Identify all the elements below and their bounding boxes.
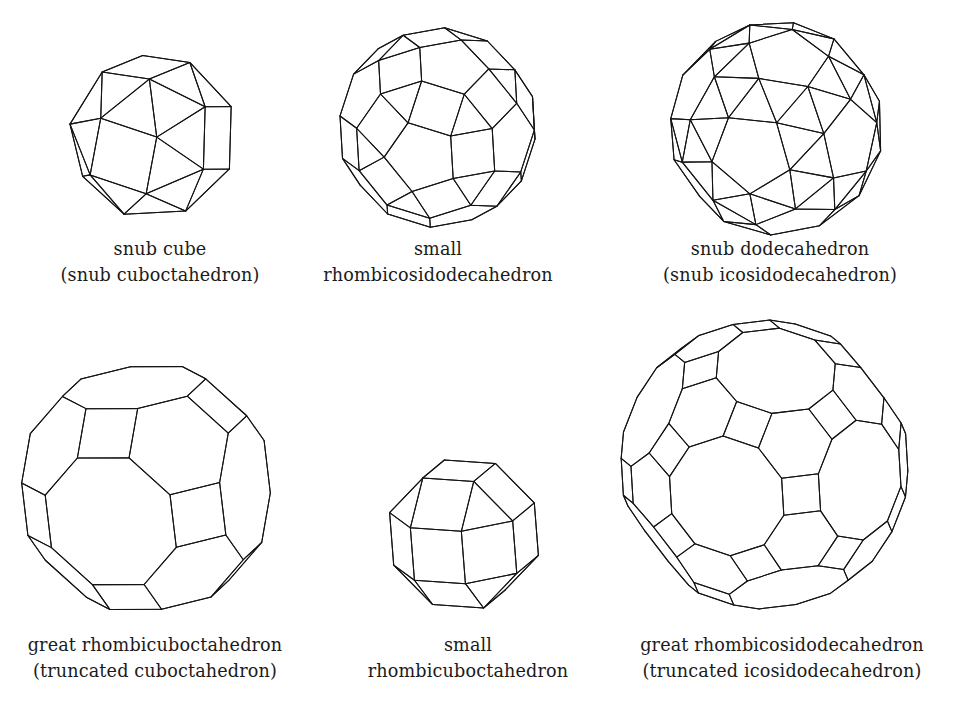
silhouette-edge [495, 463, 534, 503]
face [465, 573, 516, 608]
silhouette-edge [211, 580, 229, 597]
silhouette-edge [390, 478, 423, 513]
silhouette-edge [674, 160, 700, 197]
face [730, 545, 781, 581]
silhouette-edge [206, 379, 247, 416]
great-rhombicosidodecahedron-wireframe [612, 312, 917, 617]
silhouette-edge [247, 416, 264, 441]
face [420, 40, 489, 94]
face [669, 378, 737, 447]
face [829, 56, 864, 99]
silhouette-edge [621, 458, 623, 495]
silhouette-edge [487, 41, 515, 70]
face [682, 162, 713, 201]
face [22, 396, 86, 495]
silhouette-edge [45, 560, 86, 597]
face [649, 423, 689, 476]
face [671, 49, 715, 119]
silhouette-edge [102, 55, 142, 72]
silhouette-edge [430, 220, 472, 227]
face [101, 79, 157, 137]
silhouette-edge [143, 55, 190, 62]
caption-line-1: great rhombicuboctahedron [0, 632, 310, 658]
silhouette-edge [423, 460, 445, 478]
face [674, 160, 724, 222]
silhouette-edge [671, 75, 683, 118]
face [670, 436, 784, 556]
face [882, 398, 901, 450]
silhouette-edge [734, 605, 760, 609]
small-rhombicuboctahedron-wireframe [378, 448, 550, 620]
truncated-icosidodecahedron-svg [612, 312, 917, 617]
face [146, 169, 203, 211]
silhouette-edge [521, 139, 535, 181]
face [790, 170, 834, 209]
silhouette-edge [390, 513, 394, 565]
silhouette-edge [848, 561, 872, 580]
caption-line-2: (truncated cuboctahedron) [0, 658, 310, 684]
face [749, 29, 828, 86]
face [818, 536, 863, 570]
snub-dodecahedron-wireframe [662, 14, 890, 242]
face [809, 390, 856, 439]
face [513, 503, 539, 573]
face [690, 77, 728, 120]
face [808, 56, 851, 99]
silhouette-edge [733, 320, 770, 324]
face [844, 521, 892, 580]
face [777, 87, 824, 134]
caption-line-2: (truncated icosidodecahedron) [612, 658, 952, 684]
silhouette-edge [830, 580, 848, 593]
face [340, 61, 380, 129]
face [728, 78, 776, 122]
rhombicuboctahedron-svg [378, 448, 550, 620]
silhouette-edge [884, 398, 901, 423]
silhouette-edge [81, 367, 131, 379]
face [792, 29, 834, 56]
face [829, 39, 864, 75]
silhouette-edge [864, 75, 879, 102]
silhouette-edge [515, 70, 533, 97]
silhouette-edge [70, 72, 102, 124]
silhouette-edge [124, 211, 186, 214]
face [713, 200, 756, 224]
face [675, 324, 743, 362]
face [343, 158, 388, 214]
face [390, 478, 423, 528]
silhouette-edge [83, 176, 124, 214]
face [359, 157, 412, 205]
face [464, 69, 516, 129]
silhouette-edge [750, 23, 794, 25]
silhouette-edge [162, 597, 212, 609]
silhouette-edge [28, 535, 45, 560]
face [677, 544, 748, 595]
caption-great-rhombicuboctahedron: great rhombicuboctahedron (truncated cub… [0, 632, 310, 684]
face [866, 123, 880, 172]
face [70, 118, 101, 175]
face [710, 25, 750, 49]
silhouette-edge [22, 483, 28, 535]
figure-small-rhombicosidodecahedron [330, 20, 545, 240]
caption-small-rhombicosidodecahedron: small rhombicosidodecahedron [318, 236, 558, 288]
silhouette-edge [343, 158, 361, 185]
face [815, 340, 861, 368]
silhouette-edge [906, 434, 908, 471]
silhouette-edge [859, 151, 881, 196]
silhouette-edge [796, 594, 830, 605]
face [808, 87, 851, 134]
silhouette-edge [229, 107, 231, 169]
silhouette-edge [378, 35, 403, 49]
silhouette-edge [872, 532, 892, 562]
face [461, 40, 515, 70]
silhouette-edge [403, 28, 445, 35]
face [515, 70, 535, 130]
face [129, 396, 228, 495]
face [45, 458, 176, 585]
face [631, 453, 672, 527]
face [144, 535, 243, 609]
figure-great-rhombicosidodecahedron [612, 312, 922, 622]
silhouette-edge [624, 397, 638, 432]
face [521, 130, 535, 181]
silhouette-edge [657, 349, 681, 368]
face [723, 401, 772, 448]
